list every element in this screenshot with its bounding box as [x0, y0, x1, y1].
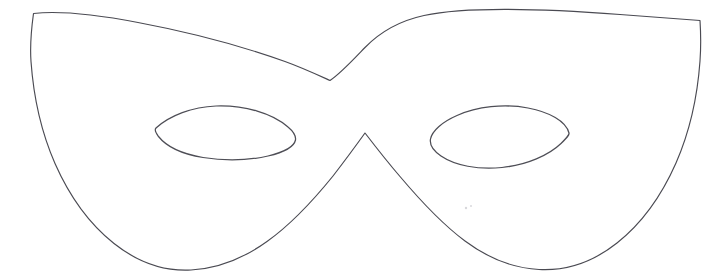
drawing-canvas	[0, 0, 722, 280]
mask-drawing	[0, 0, 722, 280]
scan-speck-1	[465, 207, 467, 209]
scan-speck-2	[470, 205, 472, 207]
